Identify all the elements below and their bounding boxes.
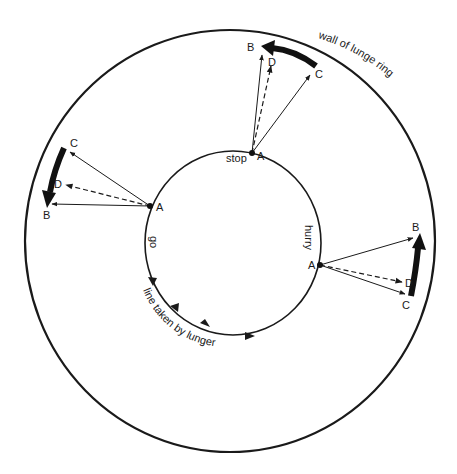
lunger-path-label: line taken by lunger bbox=[141, 286, 216, 348]
svg-text:A: A bbox=[156, 201, 164, 213]
lunge-ring-diagram: wall of lunge ring line taken by lunger … bbox=[0, 0, 457, 474]
point-a-hurry bbox=[317, 262, 323, 268]
svg-text:C: C bbox=[70, 137, 78, 149]
stop-group: B D C A stop bbox=[226, 40, 323, 164]
stop-label: stop bbox=[226, 152, 247, 164]
svg-text:A: A bbox=[257, 150, 265, 162]
arrow-icon bbox=[148, 277, 157, 286]
svg-text:D: D bbox=[405, 277, 413, 289]
thick-arrow-c-to-b bbox=[272, 48, 316, 66]
point-a-stop bbox=[249, 150, 255, 156]
arrowhead-icon bbox=[261, 40, 275, 56]
lunger-path bbox=[145, 151, 321, 335]
arrow-icon bbox=[200, 319, 210, 327]
svg-text:C: C bbox=[315, 68, 323, 80]
wall-label: wall of lunge ring bbox=[316, 28, 396, 79]
svg-text:B: B bbox=[43, 209, 50, 221]
arrowhead-icon bbox=[412, 233, 426, 250]
point-a-go bbox=[147, 203, 153, 209]
svg-text:D: D bbox=[54, 178, 62, 190]
svg-text:C: C bbox=[402, 299, 410, 311]
hurry-group: B D C A hurry bbox=[303, 221, 426, 311]
outer-ring-wall bbox=[25, 30, 435, 452]
hurry-label: hurry bbox=[303, 225, 315, 251]
go-label: go bbox=[148, 236, 160, 248]
svg-text:A: A bbox=[308, 259, 316, 271]
svg-text:B: B bbox=[412, 221, 419, 233]
svg-text:B: B bbox=[247, 41, 254, 53]
arrowhead-icon bbox=[42, 190, 56, 208]
svg-text:D: D bbox=[268, 56, 276, 68]
